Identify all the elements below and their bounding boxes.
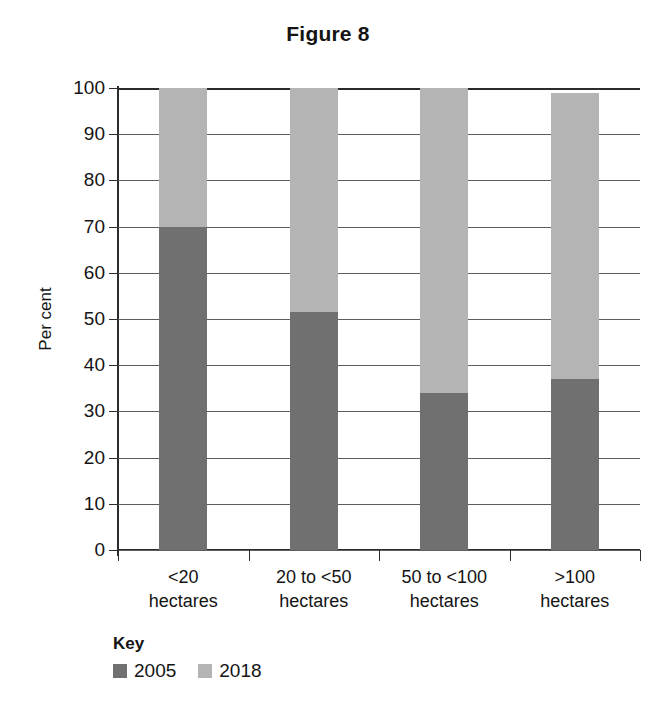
chart-title: Figure 8 [0, 22, 656, 46]
y-axis-tick-mark [109, 411, 118, 412]
y-axis-tick-mark [109, 504, 118, 505]
y-axis-tick-mark [109, 273, 118, 274]
bar-segment-2018[interactable] [290, 88, 338, 312]
y-axis-tick-label: 70 [84, 216, 105, 238]
x-axis-category-label: 20 to <50hectares [249, 566, 380, 614]
x-axis-tick-mark [118, 550, 119, 561]
x-axis-tick-mark [379, 550, 380, 561]
bar-group[interactable] [379, 88, 510, 550]
x-axis-category-label-line: hectares [510, 590, 641, 614]
legend-swatch-icon [113, 664, 127, 678]
y-axis-tick-label: 10 [84, 493, 105, 515]
y-axis-tick-label: 100 [73, 77, 105, 99]
legend-item-2018[interactable]: 2018 [198, 660, 261, 682]
y-axis-tick-mark [109, 365, 118, 366]
y-axis-title-container: Per cent [0, 88, 46, 550]
bar-segment-2018[interactable] [420, 88, 468, 393]
plot-area: 0102030405060708090100 [118, 88, 640, 550]
bar-group[interactable] [249, 88, 380, 550]
x-axis-category-label-line: 50 to <100 [379, 566, 510, 590]
x-axis-tick-mark [640, 550, 641, 561]
x-axis-category-label: <20hectares [118, 566, 249, 614]
y-axis-tick-label: 90 [84, 123, 105, 145]
x-axis-category-label-line: hectares [118, 590, 249, 614]
legend-title: Key [113, 634, 262, 654]
legend-item-label: 2005 [134, 660, 176, 682]
y-axis-tick-label: 50 [84, 308, 105, 330]
x-axis-category-label-line: hectares [379, 590, 510, 614]
legend-swatch-icon [198, 664, 212, 678]
legend-item-2005[interactable]: 2005 [113, 660, 176, 682]
figure-container: Figure 8 Per cent 0102030405060708090100… [0, 0, 656, 702]
bars-layer [118, 88, 640, 550]
x-axis-category-label-line: <20 [118, 566, 249, 590]
y-axis-tick-label: 60 [84, 262, 105, 284]
x-axis-category-label-line: hectares [249, 590, 380, 614]
y-axis-tick-mark [109, 458, 118, 459]
bar-segment-2005[interactable] [420, 393, 468, 550]
x-axis-category-label-line: >100 [510, 566, 641, 590]
y-axis-tick-mark [109, 319, 118, 320]
bar-group[interactable] [510, 88, 641, 550]
bar-segment-2005[interactable] [551, 379, 599, 550]
bar-segment-2018[interactable] [159, 88, 207, 227]
x-axis-category-label-line: 20 to <50 [249, 566, 380, 590]
y-axis-tick-label: 40 [84, 354, 105, 376]
y-axis-tick-mark [109, 88, 118, 89]
x-axis-tick-mark [510, 550, 511, 561]
bar-segment-2005[interactable] [159, 227, 207, 550]
y-axis-tick-label: 0 [94, 539, 105, 561]
y-axis-tick-label: 20 [84, 447, 105, 469]
legend: Key 20052018 [113, 634, 262, 682]
legend-item-label: 2018 [219, 660, 261, 682]
y-axis-tick-mark [109, 134, 118, 135]
bar-group[interactable] [118, 88, 249, 550]
legend-items: 20052018 [113, 660, 262, 682]
y-axis-title: Per cent [36, 287, 56, 350]
bar-segment-2005[interactable] [290, 312, 338, 550]
bar-segment-2018[interactable] [551, 93, 599, 379]
y-axis-tick-mark [109, 180, 118, 181]
y-axis-tick-label: 30 [84, 400, 105, 422]
x-axis-tick-mark [249, 550, 250, 561]
y-axis-tick-label: 80 [84, 169, 105, 191]
y-axis-tick-mark [109, 227, 118, 228]
y-axis-tick-mark [109, 550, 118, 551]
x-axis-category-label: >100hectares [510, 566, 641, 614]
x-axis-category-label: 50 to <100hectares [379, 566, 510, 614]
